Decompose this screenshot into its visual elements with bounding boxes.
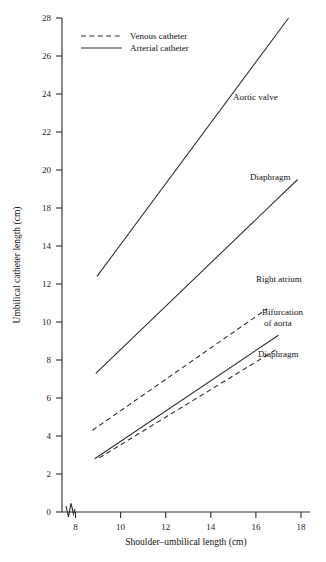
x-axis-title: Shoulder–umbilical length (cm) [125,537,246,548]
y-tick-label: 4 [47,431,52,441]
series-line [99,350,276,458]
y-tick-label: 12 [42,279,51,289]
axis-break-icon [66,503,75,517]
y-tick-label: 6 [47,393,52,403]
y-tick-labels: 02468101214182022242628 [42,13,52,517]
y-tick-label: 22 [42,127,51,137]
y-tick-label: 28 [42,13,52,23]
x-tick-labels: 81012141618 [73,522,306,532]
series-annotation: of aorta [264,318,292,328]
y-tick-label: 2 [47,469,52,479]
series-annotation: Diaphragm [258,349,299,359]
chart-svg: 02468101214182022242628 81012141618 Aort… [0,0,326,562]
x-tick-label: 18 [296,522,306,532]
y-tick-label: 20 [42,165,52,175]
x-tick-label: 10 [116,522,126,532]
y-tick-label: 0 [47,507,52,517]
x-tick-label: 8 [73,522,78,532]
x-tick-label: 16 [251,522,261,532]
series-lines [92,18,297,459]
series-annotation: Diaphragm [250,172,291,182]
x-ticks [76,512,301,518]
legend-label-venous: Venous catheter [130,31,187,41]
legend: Venous catheter Arterial catheter [81,31,189,53]
y-tick-label: 24 [42,89,52,99]
series-annotation: Aortic valve [233,92,278,102]
series-line [92,309,267,431]
series-line [97,18,289,276]
x-axis: 81012141618 [62,503,310,532]
y-tick-label: 10 [42,317,52,327]
y-tick-label: 8 [47,355,52,365]
x-tick-label: 14 [206,522,216,532]
y-tick-label: 14 [42,241,52,251]
series-line [95,335,279,459]
y-axis-title: Umbilical catheter length (cm) [12,207,23,324]
y-axis: 02468101214182022242628 [42,13,62,517]
series-annotations: Aortic valveDiaphragmRight atriumBifurca… [233,92,303,359]
y-ticks [56,18,62,512]
series-annotation: Bifurcation [262,307,303,317]
y-tick-label: 26 [42,51,52,61]
chart-figure: 02468101214182022242628 81012141618 Aort… [0,0,326,562]
series-annotation: Right atrium [256,274,302,284]
x-tick-label: 12 [161,522,170,532]
legend-label-arterial: Arterial catheter [130,43,189,53]
y-tick-label: 18 [42,203,52,213]
